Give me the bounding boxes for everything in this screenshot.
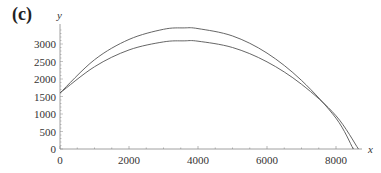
trajectory-chart: 0200040006000800005001000150020002500300… [0, 0, 381, 173]
x-tick-label: 0 [57, 154, 63, 166]
y-tick-label: 500 [40, 126, 57, 138]
y-tick-label: 3000 [34, 38, 57, 50]
y-tick-label: 2500 [34, 56, 57, 68]
y-axis-label: y [56, 9, 62, 21]
x-tick-label: 2000 [118, 154, 141, 166]
y-tick-label: 2000 [34, 73, 57, 85]
y-tick-label: 0 [51, 143, 57, 155]
series-line-2 [60, 41, 358, 149]
x-axis-label: x [367, 143, 373, 155]
y-tick-label: 1000 [34, 108, 57, 120]
y-tick-label: 1500 [34, 91, 57, 103]
x-tick-label: 4000 [187, 154, 210, 166]
series-line-1 [60, 28, 353, 149]
x-tick-label: 6000 [256, 154, 279, 166]
x-tick-label: 8000 [325, 154, 348, 166]
